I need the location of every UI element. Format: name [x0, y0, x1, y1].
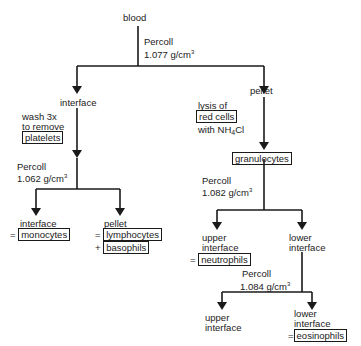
granulocytes-box: granulocytes	[232, 152, 292, 165]
step-left-density: 1.062 g/cm3	[17, 171, 67, 184]
lower-interface-line2: interface	[289, 242, 325, 253]
upper-interface-line2: interface	[202, 242, 238, 253]
lymphocytes-result: = lymphocytes	[95, 228, 162, 241]
node-blood: blood	[123, 12, 146, 23]
basophils-result: + basophils	[95, 241, 149, 254]
step1-density: 1.077 g/cm3	[144, 47, 194, 60]
step2-reagent: Percoll	[242, 268, 271, 279]
lysis-line3: with NH4Cl	[198, 124, 244, 138]
neutrophils-result: = neutrophils	[190, 253, 251, 266]
lower2-line2: interface	[294, 318, 330, 329]
upper2-line2: interface	[205, 322, 241, 333]
eosinophils-result: =eosinophils	[288, 329, 347, 342]
monocytes-result: = monocytes	[10, 228, 70, 241]
node-interface: interface	[60, 97, 96, 108]
red-cells-box: red cells	[196, 110, 237, 123]
step2-density: 1.084 g/cm3	[240, 279, 290, 292]
platelets-box: platelets	[22, 131, 63, 144]
step-right-density: 1.082 g/cm3	[202, 185, 252, 198]
step1-reagent: Percoll	[144, 36, 173, 47]
node-pellet: pellet	[250, 85, 273, 96]
